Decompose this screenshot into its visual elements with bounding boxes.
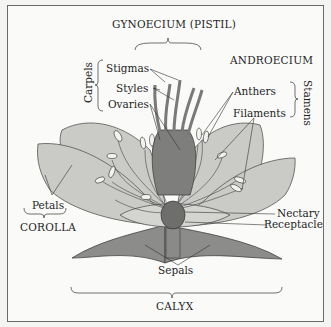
- petals-label: Petals: [32, 200, 64, 211]
- carpels-label: Carpels: [83, 62, 94, 103]
- receptacle-label: Receptacle: [264, 219, 323, 230]
- corolla-label: COROLLA: [20, 222, 76, 233]
- filaments-label: Filaments: [233, 108, 286, 119]
- stamens-label: Stamens: [303, 80, 314, 126]
- calyx-label: CALYX: [156, 301, 193, 312]
- pistil: [152, 80, 202, 195]
- androecium-label: ANDROECIUM: [230, 55, 313, 66]
- styles-label: Styles: [116, 83, 148, 94]
- ovaries-label: Ovaries: [108, 99, 149, 110]
- nectary-label: Nectary: [277, 208, 320, 219]
- flower-illustration: [0, 0, 331, 327]
- gynoecium-label: GYNOECIUM (PISTIL): [112, 19, 236, 30]
- nectary: [161, 201, 185, 229]
- stem: [166, 228, 180, 258]
- stigmas-label: Stigmas: [106, 63, 149, 74]
- anthers-label: Anthers: [234, 86, 276, 97]
- sepals-label: Sepals: [158, 265, 193, 276]
